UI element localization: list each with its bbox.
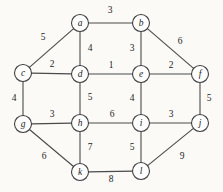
edge-weight-i-j: 3 bbox=[169, 109, 174, 119]
edge-weight-e-i: 4 bbox=[130, 93, 135, 103]
graph-edge-g-k bbox=[30, 129, 74, 166]
node-label-d: d bbox=[78, 69, 83, 79]
graph-edge-c-d bbox=[32, 73, 72, 74]
node-label-g: g bbox=[21, 119, 26, 129]
graph-node-f[interactable]: f bbox=[192, 66, 209, 83]
node-label-l: l bbox=[140, 166, 143, 176]
graph-edge-k-l bbox=[89, 171, 133, 172]
node-label-e: e bbox=[139, 69, 143, 79]
graph-node-g[interactable]: g bbox=[15, 116, 32, 133]
graph-edge-j-l bbox=[148, 128, 194, 165]
edge-weight-i-l: 5 bbox=[130, 142, 135, 152]
weight-labels-layer: 35436241524536673598 bbox=[12, 5, 212, 184]
edge-weight-d-e: 1 bbox=[109, 60, 114, 70]
graph-node-j[interactable]: j bbox=[192, 115, 209, 132]
edge-weight-a-c: 5 bbox=[41, 32, 46, 42]
edge-weight-h-k: 7 bbox=[88, 142, 93, 152]
node-label-a: a bbox=[78, 18, 83, 28]
edge-weight-h-i: 6 bbox=[110, 109, 115, 119]
graph-node-d[interactable]: d bbox=[72, 66, 89, 83]
edge-weight-a-d: 4 bbox=[88, 43, 93, 53]
edge-weight-g-h: 3 bbox=[50, 109, 55, 119]
node-label-b: b bbox=[139, 18, 144, 28]
edge-weight-k-l: 8 bbox=[109, 174, 114, 184]
graph-node-h[interactable]: h bbox=[72, 115, 89, 132]
graph-node-c[interactable]: c bbox=[15, 65, 32, 82]
edge-weight-a-b: 3 bbox=[108, 5, 113, 15]
edge-weight-j-l: 9 bbox=[180, 151, 185, 161]
graph-node-b[interactable]: b bbox=[133, 15, 150, 32]
graph-node-e[interactable]: e bbox=[133, 66, 150, 83]
edge-weight-g-k: 6 bbox=[42, 151, 47, 161]
graph-node-k[interactable]: k bbox=[72, 164, 89, 181]
graph-canvas: abcdefghijkl 35436241524536673598 bbox=[0, 0, 223, 192]
edge-weight-b-f: 6 bbox=[178, 36, 183, 46]
node-label-h: h bbox=[78, 118, 83, 128]
edge-weight-f-j: 5 bbox=[207, 93, 212, 103]
edge-weight-e-f: 2 bbox=[169, 60, 174, 70]
edge-weight-c-g: 4 bbox=[12, 93, 17, 103]
graph-node-l[interactable]: l bbox=[133, 163, 150, 180]
edge-weight-d-h: 5 bbox=[88, 92, 93, 102]
graph-figure: abcdefghijkl 35436241524536673598 bbox=[0, 0, 223, 192]
graph-node-i[interactable]: i bbox=[133, 115, 150, 132]
edge-weight-b-e: 3 bbox=[130, 43, 135, 53]
edge-weight-c-d: 2 bbox=[50, 59, 55, 69]
graph-node-a[interactable]: a bbox=[72, 15, 89, 32]
graph-edge-g-h bbox=[32, 123, 72, 124]
node-label-i: i bbox=[140, 118, 143, 128]
edges-layer bbox=[23, 23, 200, 172]
